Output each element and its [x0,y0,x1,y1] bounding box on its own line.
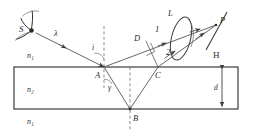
label-ray-1: 1 [155,24,159,34]
label-index-film-n2: n₂ [27,85,34,94]
label-point-D: D [133,33,141,43]
ray-2-c-to-p [158,25,216,67]
label-thickness-d: d [214,83,218,92]
label-angle-i: i [92,43,94,52]
label-point-C: C [155,70,161,80]
label-index-below-n1: n₁ [27,117,34,126]
focal-point-p-dot [215,24,218,27]
label-point-A: A [94,70,101,80]
figure-root: S λ i γ A B C D P L H 1 2 n₁ n₂ n₁ d [0,0,256,137]
point-b-dot [129,108,132,111]
label-wavelength-lambda: λ [53,28,58,38]
refracted-path-group [104,67,158,110]
source-arc-upper [23,11,40,16]
normal-lines-group [104,26,130,130]
incident-ray-direction-arrow [60,45,66,48]
reflected-ray-1-group [104,25,216,67]
label-source-S: S [19,24,24,34]
emergent-ray-2-group [158,25,216,67]
label-point-P: P [219,15,225,25]
label-index-above-n1: n₁ [27,51,34,60]
source-burst-up [32,11,33,29]
label-angle-gamma: γ [108,83,112,92]
ray-diagram-canvas: S λ i γ A B C D P L H 1 2 n₁ n₂ n₁ d [0,0,256,137]
label-screen-H: H [213,50,220,60]
label-point-B: B [133,113,138,123]
perpendicular-cd-group [146,41,158,67]
internal-reflected-ray-b-to-c [130,67,158,109]
perpendicular-segment-c-to-d [146,41,158,67]
label-lens-L: L [167,8,173,18]
ray-1-a-to-p [104,25,216,67]
angle-arc-incidence-i [95,53,105,59]
ray-2-direction-arrow-upper [196,33,204,39]
